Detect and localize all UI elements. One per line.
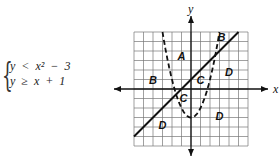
y-arrow-down-icon (188, 149, 194, 156)
region-label-d: D (216, 110, 224, 122)
region-label-d: D (159, 119, 167, 131)
region-label-c: C (197, 74, 206, 86)
region-label-b: B (217, 31, 225, 43)
region-label-b: B (149, 74, 157, 86)
y-arrow-up-icon (188, 16, 194, 23)
coordinate-graph: xyABBCCDDD (0, 0, 280, 157)
region-label-d: D (225, 66, 233, 78)
region-label-a: A (177, 50, 186, 62)
x-arrow-left-icon (114, 86, 121, 92)
region-label-c: C (179, 92, 188, 104)
x-arrow-right-icon (261, 86, 268, 92)
y-axis-label: y (187, 2, 194, 16)
x-axis-label: x (272, 82, 279, 96)
